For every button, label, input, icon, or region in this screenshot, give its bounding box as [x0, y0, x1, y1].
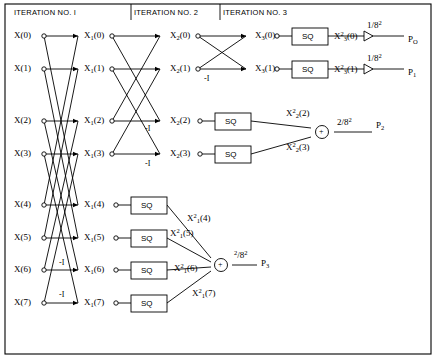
stage2-label-1: X2(1) — [170, 64, 190, 75]
output-label-p2: P2 — [376, 121, 384, 132]
input-label-x1: X(1) — [14, 64, 31, 73]
sq-box-label-1: SQ — [302, 65, 314, 74]
twiddle-label-3: -I — [59, 258, 64, 267]
sq-box-label-0: SQ — [302, 32, 314, 41]
stage1-label-6: X1(6) — [84, 265, 104, 276]
input-label-x6: X(6) — [14, 265, 31, 274]
sq-box-label-7: SQ — [141, 299, 153, 308]
gain-label-3: 2/82 — [234, 250, 248, 260]
sq-box-label-3: SQ — [225, 150, 237, 159]
header-iteration-2: ITERATION NO. 2 — [134, 8, 198, 17]
squared-label-x3sq-0: X23(0) — [334, 31, 358, 43]
input-label-x0: X(0) — [14, 31, 31, 40]
input-label-x3: X(3) — [14, 149, 31, 158]
stage1-label-2: X1(2) — [84, 116, 104, 127]
stage1-label-4: X1(4) — [84, 200, 104, 211]
gain-label-1: 1/82 — [367, 53, 382, 63]
adder-symbol-1: + — [218, 261, 223, 269]
header-iteration-1: ITERATION NO. I — [14, 8, 76, 17]
twiddle-label-1: -I — [145, 124, 150, 133]
stage2-label-0: X2(0) — [170, 31, 190, 42]
gain-label-2: 2/82 — [337, 117, 352, 127]
squared-label-x1sq-4: X21(4) — [187, 213, 211, 225]
input-label-x4: X(4) — [14, 200, 31, 209]
stage1-label-1: X1(1) — [84, 64, 104, 75]
squared-label-x2sq-2: X22(2) — [286, 108, 310, 120]
output-label-p3: P3 — [261, 259, 269, 270]
gain-label-0: 1/82 — [367, 20, 382, 30]
stage1-label-3: X1(3) — [84, 149, 104, 160]
sq-box-label-5: SQ — [141, 234, 153, 243]
stage1-label-0: X1(0) — [84, 31, 104, 42]
input-label-x5: X(5) — [14, 233, 31, 242]
fft-signal-flow-diagram: ITERATION NO. I ITERATION NO. 2 ITERATIO… — [0, 0, 436, 358]
stage2-label-3: X2(3) — [170, 149, 190, 160]
squared-label-x1sq-5: X21(5) — [170, 228, 194, 240]
squared-label-x1sq-6: X21(6) — [174, 263, 198, 275]
stage2-label-2: X2(2) — [170, 116, 190, 127]
sq-box-label-2: SQ — [225, 117, 237, 126]
twiddle-label-2: -I — [145, 159, 150, 168]
header-iteration-3: ITERATION NO. 3 — [223, 8, 287, 17]
stage1-label-7: X1(7) — [84, 298, 104, 309]
input-label-x2: X(2) — [14, 116, 31, 125]
squared-label-x1sq-7: X21(7) — [192, 288, 216, 300]
sq-box-label-6: SQ — [141, 266, 153, 275]
squared-label-x3sq-1: X23(1) — [334, 64, 358, 76]
adder-symbol-0: + — [319, 128, 324, 136]
sq-box-label-4: SQ — [141, 201, 153, 210]
twiddle-label-4: -I — [59, 290, 64, 299]
input-label-x7: X(7) — [14, 298, 31, 307]
stage1-label-5: X1(5) — [84, 233, 104, 244]
squared-label-x2sq-3: X22(3) — [286, 142, 310, 154]
output-label-p1: P1 — [408, 68, 416, 79]
stage3-label-1: X3(1) — [255, 64, 275, 75]
stage3-label-0: X3(0) — [255, 31, 275, 42]
twiddle-label-0: -I — [204, 74, 209, 83]
output-label-p0: PO — [408, 35, 418, 46]
